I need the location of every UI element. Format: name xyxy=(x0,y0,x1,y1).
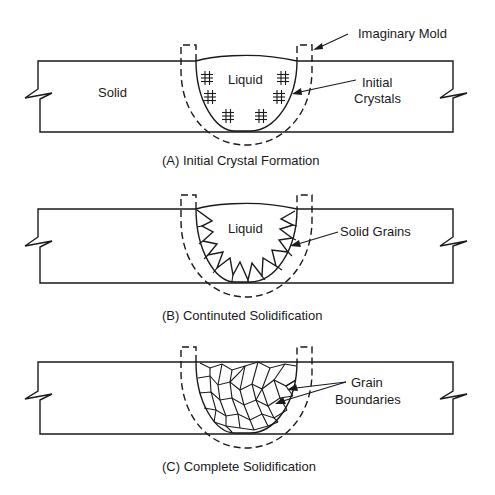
label-grain: Grain xyxy=(351,375,383,390)
caption-c: (C) Complete Solidification xyxy=(162,459,316,474)
panel-a: Solid Liquid Imaginary Mold Initial Crys… xyxy=(25,26,467,168)
caption-a: (A) Initial Crystal Formation xyxy=(162,153,319,168)
mold-leader-line xyxy=(318,34,348,48)
caption-b: (B) Continuted Solidification xyxy=(162,308,322,323)
boundaries-leader-line-1 xyxy=(296,382,346,388)
panel-b: Liquid Solid Grains (B) Continuted Solid… xyxy=(25,195,467,323)
label-initial: Initial xyxy=(362,75,392,90)
label-imaginary-mold: Imaginary Mold xyxy=(358,26,447,41)
weld-solidification-diagram: Solid Liquid Imaginary Mold Initial Crys… xyxy=(0,0,495,495)
label-liquid: Liquid xyxy=(228,221,263,236)
label-boundaries: Boundaries xyxy=(335,392,401,407)
grains-leader-line xyxy=(298,232,338,244)
label-liquid: Liquid xyxy=(228,72,263,87)
crystals-leader-line xyxy=(300,80,356,92)
mold-arrowhead xyxy=(313,43,323,50)
label-solid-grains: Solid Grains xyxy=(340,224,411,239)
label-solid: Solid xyxy=(98,85,127,100)
label-crystals: Crystals xyxy=(354,91,401,106)
grain-network xyxy=(198,362,296,432)
panel-c: Grain Boundaries (C) Complete Solidifica… xyxy=(25,347,467,474)
